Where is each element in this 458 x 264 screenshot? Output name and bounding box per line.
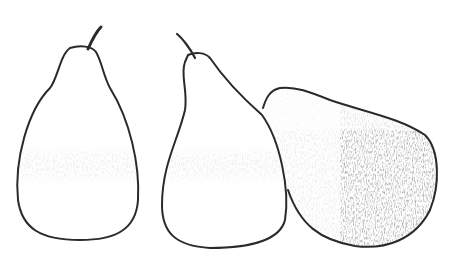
middle-pear-shading [155, 50, 295, 250]
left-pear-stem [88, 27, 101, 49]
right-pear-shading [260, 85, 445, 255]
pear-drawing [0, 0, 458, 264]
sketch-svg [0, 0, 458, 264]
left-pear-shading [10, 40, 145, 245]
